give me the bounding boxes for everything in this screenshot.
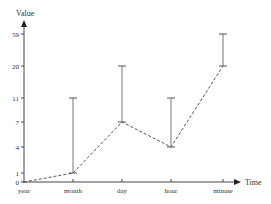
x-axis-label: Time bbox=[245, 178, 262, 187]
y-tick-label: 20 bbox=[12, 63, 20, 71]
x-axis-arrow-icon bbox=[234, 179, 241, 185]
y-tick-label: 0 bbox=[16, 179, 20, 187]
error-bars bbox=[69, 34, 227, 173]
y-axis-arrow-icon bbox=[21, 20, 27, 27]
x-tick-label: hour bbox=[165, 187, 179, 195]
x-ticks: yearmonthdayhourminute bbox=[18, 179, 233, 195]
chart-svg: Value Time 0147112059 yearmonthdayhourmi… bbox=[0, 0, 271, 204]
y-tick-label: 4 bbox=[16, 144, 20, 152]
x-axis: Time bbox=[23, 178, 262, 187]
y-tick-label: 1 bbox=[16, 170, 20, 178]
value-line bbox=[24, 66, 223, 182]
chart-container: Value Time 0147112059 yearmonthdayhourmi… bbox=[0, 0, 271, 204]
y-tick-label: 59 bbox=[12, 31, 20, 39]
y-tick-label: 11 bbox=[12, 95, 19, 103]
x-tick-label: year bbox=[18, 187, 31, 195]
y-tick-label: 7 bbox=[16, 119, 20, 127]
x-tick-label: minute bbox=[213, 187, 232, 195]
data-series bbox=[24, 66, 223, 182]
x-tick-label: month bbox=[64, 187, 82, 195]
y-ticks: 0147112059 bbox=[12, 31, 24, 187]
x-tick-label: day bbox=[117, 187, 128, 195]
y-axis-label: Value bbox=[16, 9, 35, 18]
